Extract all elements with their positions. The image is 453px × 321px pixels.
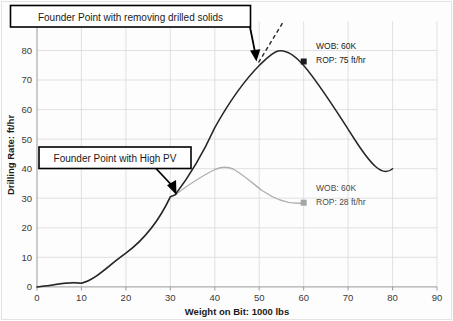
tangent-dashed-line	[259, 22, 284, 63]
marker-black-square	[301, 59, 307, 65]
x-tick-0: 0	[34, 292, 39, 303]
x-tick-30: 30	[165, 292, 176, 303]
y-tick-60: 60	[21, 104, 32, 115]
chart-figure: 0 10 20 30 40 50 60 70 80 0 10 20 30 40 …	[0, 0, 453, 321]
gray-marker-wob-label: WOB: 60K	[316, 183, 356, 193]
callout-founder-removing-drilled-solids[interactable]: Founder Point with removing drilled soli…	[11, 6, 261, 62]
x-axis-title: Weight on Bit: 1000 lbs	[185, 306, 289, 317]
y-tick-10: 10	[21, 252, 32, 263]
x-tick-70: 70	[343, 292, 354, 303]
x-tick-20: 20	[121, 292, 132, 303]
y-axis-title: Drilling Rate: ft/hr	[5, 115, 16, 196]
x-tick-80: 80	[387, 292, 398, 303]
x-tick-10: 10	[76, 292, 87, 303]
y-tick-80: 80	[21, 45, 32, 56]
x-tick-40: 40	[210, 292, 221, 303]
callout-mid-label: Founder Point with High PV	[54, 153, 177, 164]
x-tick-50: 50	[254, 292, 265, 303]
y-tick-30: 30	[21, 193, 32, 204]
marker-gray-square	[301, 200, 307, 206]
x-tick-90: 90	[432, 292, 443, 303]
callout-top-leader	[250, 27, 255, 52]
callout-founder-high-pv[interactable]: Founder Point with High PV	[39, 147, 191, 195]
drilling-rate-vs-wob-chart: 0 10 20 30 40 50 60 70 80 0 10 20 30 40 …	[0, 0, 453, 321]
black-marker-rop-label: ROP: 75 ft/hr	[316, 55, 366, 65]
y-tick-50: 50	[21, 134, 32, 145]
y-tick-40: 40	[21, 163, 32, 174]
x-tick-60: 60	[298, 292, 309, 303]
y-tick-20: 20	[21, 222, 32, 233]
callout-top-arrowhead	[250, 49, 260, 61]
callout-mid-leader	[156, 169, 172, 186]
black-marker-wob-label: WOB: 60K	[316, 41, 356, 51]
callout-top-label: Founder Point with removing drilled soli…	[38, 12, 223, 23]
y-tick-70: 70	[21, 74, 32, 85]
y-tick-0: 0	[27, 281, 32, 292]
gray-marker-rop-label: ROP: 28 ft/hr	[316, 197, 366, 207]
